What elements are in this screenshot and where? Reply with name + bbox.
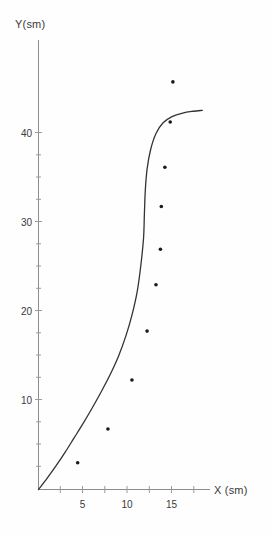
chart-figure: Y(sm) X (sm) 5 10 15 40 30 20 10 xyxy=(0,0,271,536)
x-tick-label-15: 15 xyxy=(166,499,177,510)
fitted-curve xyxy=(39,110,203,489)
data-point xyxy=(154,283,158,287)
x-tick-label-5: 5 xyxy=(80,499,86,510)
data-point xyxy=(145,329,149,333)
x-axis-title: X (sm) xyxy=(214,484,248,496)
y-tick-label-30: 30 xyxy=(10,216,32,227)
data-point xyxy=(163,166,167,170)
data-point xyxy=(159,247,163,251)
y-tick-label-10: 10 xyxy=(10,394,32,405)
data-point xyxy=(168,120,172,124)
y-tick-label-40: 40 xyxy=(10,127,32,138)
x-tick-label-10: 10 xyxy=(121,499,132,510)
plot-area xyxy=(0,0,271,536)
data-point xyxy=(130,378,134,382)
y-axis-title: Y(sm) xyxy=(15,18,45,30)
data-point xyxy=(171,80,175,84)
data-point xyxy=(106,427,110,431)
data-points xyxy=(76,80,175,465)
data-point xyxy=(160,205,164,209)
y-tick-label-20: 20 xyxy=(10,305,32,316)
axis-lines xyxy=(38,40,210,490)
data-point xyxy=(76,461,80,465)
